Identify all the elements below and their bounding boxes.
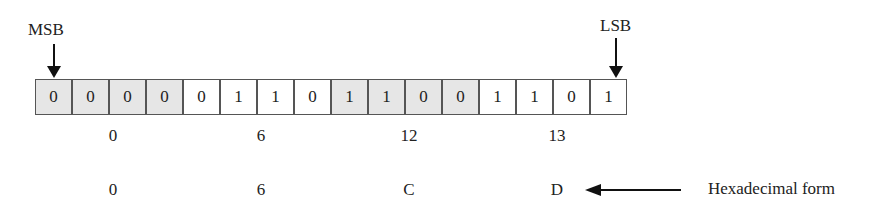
bit-cell: 0 xyxy=(405,79,442,115)
bit-cell: 0 xyxy=(183,79,220,115)
lsb-label: LSB xyxy=(600,16,631,36)
bit-cell: 1 xyxy=(479,79,516,115)
bit-cell: 0 xyxy=(35,79,72,115)
bit-cell: 0 xyxy=(109,79,146,115)
hex-form-label: Hexadecimal form xyxy=(708,179,835,199)
msb-arrow-icon xyxy=(53,44,55,76)
lsb-arrow-icon xyxy=(615,38,617,76)
bit-cell: 0 xyxy=(146,79,183,115)
bit-cell: 1 xyxy=(331,79,368,115)
decimal-group-1: 6 xyxy=(187,126,335,146)
bit-cell: 0 xyxy=(442,79,479,115)
bit-cell: 1 xyxy=(220,79,257,115)
hex-group-0: 0 xyxy=(39,180,187,200)
bit-cell: 0 xyxy=(294,79,331,115)
decimal-group-2: 12 xyxy=(335,126,483,146)
hex-group-1: 6 xyxy=(187,180,335,200)
bit-cell: 0 xyxy=(72,79,109,115)
msb-label: MSB xyxy=(28,20,64,40)
bit-cell: 1 xyxy=(368,79,405,115)
hex-group-2: C xyxy=(335,180,483,200)
hex-arrow-icon xyxy=(585,180,685,200)
decimal-group-3: 13 xyxy=(483,126,631,146)
bit-cell: 1 xyxy=(590,79,627,115)
bit-cell: 0 xyxy=(553,79,590,115)
bit-cell: 1 xyxy=(516,79,553,115)
bit-cell: 1 xyxy=(257,79,294,115)
decimal-group-0: 0 xyxy=(39,126,187,146)
